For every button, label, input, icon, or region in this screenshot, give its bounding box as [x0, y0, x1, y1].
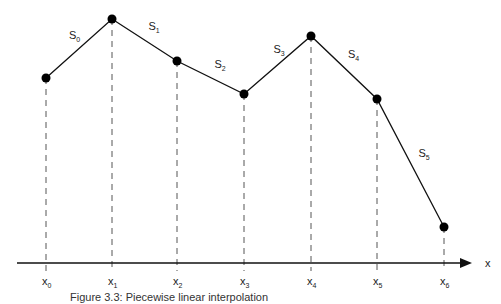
x-tick-label: x4	[307, 275, 317, 289]
segment-label: S3	[274, 43, 285, 57]
x-tick-label: x6	[440, 275, 450, 289]
vertical-guide-lines	[46, 19, 444, 271]
point-marker	[307, 32, 316, 41]
piecewise-linear-curve	[46, 19, 444, 227]
axis-label: x	[485, 257, 491, 269]
segment-label: S4	[348, 48, 359, 62]
point-marker	[173, 57, 182, 66]
segment-label: S0	[69, 29, 80, 43]
point-marker	[373, 95, 382, 104]
segment-label: S2	[215, 58, 226, 72]
data-points	[42, 15, 449, 232]
point-marker	[42, 74, 51, 83]
point-marker	[440, 223, 449, 232]
x-tick-label: x0	[42, 275, 52, 289]
point-marker	[108, 15, 117, 24]
x-tick-label: x2	[173, 275, 183, 289]
x-tick-labels: x0x1x2x3x4x5x6	[42, 275, 450, 289]
x-axis: x	[17, 257, 491, 269]
x-tick-label: x5	[373, 275, 383, 289]
segment-labels: S0S1S2S3S4S5	[69, 20, 430, 161]
x-tick-label: x3	[240, 275, 250, 289]
segment-label: S5	[419, 147, 430, 161]
segment-label: S1	[149, 20, 160, 34]
interpolation-diagram: x S0S1S2S3S4S5 x0x1x2x3x4x5x6	[0, 0, 501, 304]
x-tick-label: x1	[108, 275, 118, 289]
figure-caption: Figure 3.3: Piecewise linear interpolati…	[70, 291, 268, 303]
axis-arrow-icon	[460, 258, 472, 268]
point-marker	[240, 90, 249, 99]
